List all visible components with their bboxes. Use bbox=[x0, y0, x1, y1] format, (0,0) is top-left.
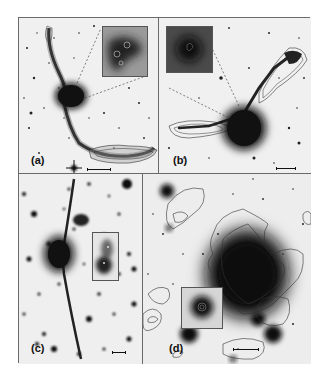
panel-d-image bbox=[143, 174, 311, 364]
panel-a-label: (a) bbox=[31, 154, 44, 166]
panel-d-label: (d) bbox=[169, 342, 183, 354]
panel-b-scale-bar bbox=[276, 167, 296, 170]
panel-b: (b) bbox=[159, 18, 311, 174]
panel-b-label: (b) bbox=[173, 154, 187, 166]
panel-a-inset bbox=[102, 26, 148, 77]
panel-d: (d) bbox=[143, 174, 311, 364]
panel-a: (a) bbox=[19, 18, 159, 174]
panel-a-scale-bar bbox=[87, 168, 111, 171]
panel-c-label: (c) bbox=[31, 342, 44, 354]
panel-d-inset bbox=[181, 287, 223, 329]
panel-c-scale-bar bbox=[112, 351, 126, 354]
panel-c-image bbox=[19, 174, 143, 364]
astronomy-figure: (a) bbox=[18, 17, 310, 363]
panel-c: (c) bbox=[19, 174, 143, 364]
panel-d-scale-bar bbox=[233, 348, 259, 351]
panel-c-inset bbox=[92, 232, 119, 281]
panel-b-inset bbox=[166, 26, 213, 73]
